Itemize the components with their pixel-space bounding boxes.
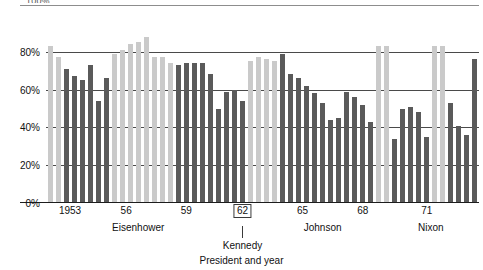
clipped-top-axis-label: 100%: [26, 0, 50, 3]
president-labels-row2: KennedyFord: [46, 240, 479, 254]
y-tick-label: 0%: [26, 198, 40, 209]
president-labels-row1: EisenhowerJohnsonNixonCarterReaganBushCl…: [46, 222, 479, 236]
x-axis-tick-labels: 195356596265687175788083868992952001: [46, 205, 479, 221]
y-tick-label: 20%: [20, 160, 40, 171]
president-label-nixon: Nixon: [418, 222, 444, 233]
bar-chart: 100% 80%60%40%20%0% 19535659626568717578…: [0, 0, 483, 270]
x-axis-title: President and year: [0, 255, 483, 266]
y-tick-label: 60%: [20, 84, 40, 95]
x-tick-label-1953: 1953: [59, 205, 81, 216]
x-tick-label-62: 62: [234, 204, 251, 218]
plot-area: 80%60%40%20%0%: [46, 14, 479, 203]
president-label-johnson: Johnson: [304, 222, 342, 233]
x-tick-label-68: 68: [357, 205, 368, 216]
y-tick-label: 80%: [20, 46, 40, 57]
president-label-kennedy: Kennedy: [223, 240, 262, 251]
y-axis-ticks: 80%60%40%20%0%: [46, 14, 479, 203]
leader-line: [242, 226, 243, 238]
x-tick-label-65: 65: [297, 205, 308, 216]
president-label-eisenhower: Eisenhower: [112, 222, 164, 233]
x-tick-label-59: 59: [181, 205, 192, 216]
top-rule: [20, 5, 479, 6]
x-tick-label-71: 71: [421, 205, 432, 216]
x-tick-label-56: 56: [121, 205, 132, 216]
y-tick-label: 40%: [20, 122, 40, 133]
